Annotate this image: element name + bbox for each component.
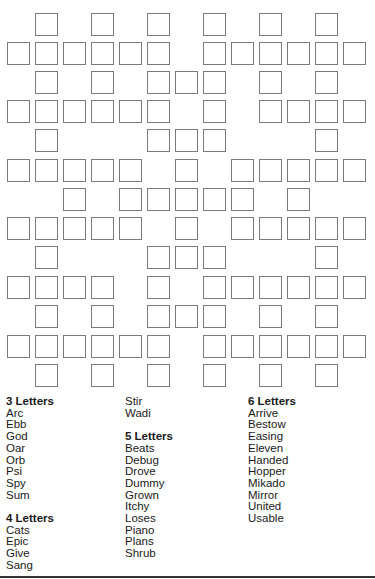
grid-cell-r9-c5[interactable]	[147, 276, 170, 299]
grid-cell-r7-c4[interactable]	[119, 217, 142, 240]
grid-cell-r10-c6[interactable]	[175, 305, 198, 328]
grid-cell-r2-c7[interactable]	[203, 71, 226, 94]
grid-cell-r7-c12[interactable]	[343, 217, 366, 240]
grid-cell-r2-c3[interactable]	[91, 71, 114, 94]
grid-cell-r12-c7[interactable]	[203, 364, 226, 387]
grid-cell-r6-c2[interactable]	[63, 188, 86, 211]
grid-cell-r9-c12[interactable]	[343, 276, 366, 299]
grid-cell-r11-c8[interactable]	[231, 335, 254, 358]
grid-cell-r11-c1[interactable]	[35, 335, 58, 358]
grid-cell-r10-c3[interactable]	[91, 305, 114, 328]
grid-cell-r8-c11[interactable]	[315, 246, 338, 269]
grid-cell-r11-c10[interactable]	[287, 335, 310, 358]
grid-cell-r4-c1[interactable]	[35, 129, 58, 152]
grid-cell-r1-c5[interactable]	[147, 42, 170, 65]
grid-cell-r12-c1[interactable]	[35, 364, 58, 387]
grid-cell-r7-c8[interactable]	[231, 217, 254, 240]
grid-cell-r0-c9[interactable]	[259, 13, 282, 36]
grid-cell-r10-c7[interactable]	[203, 305, 226, 328]
grid-cell-r0-c1[interactable]	[35, 13, 58, 36]
grid-cell-r1-c3[interactable]	[91, 42, 114, 65]
grid-cell-r7-c3[interactable]	[91, 217, 114, 240]
grid-cell-r3-c2[interactable]	[63, 100, 86, 123]
grid-cell-r7-c11[interactable]	[315, 217, 338, 240]
grid-cell-r3-c7[interactable]	[203, 100, 226, 123]
grid-cell-r11-c5[interactable]	[147, 335, 170, 358]
grid-cell-r9-c3[interactable]	[91, 276, 114, 299]
grid-cell-r3-c11[interactable]	[315, 100, 338, 123]
grid-cell-r7-c0[interactable]	[7, 217, 30, 240]
grid-cell-r12-c9[interactable]	[259, 364, 282, 387]
grid-cell-r1-c11[interactable]	[315, 42, 338, 65]
grid-cell-r10-c1[interactable]	[35, 305, 58, 328]
grid-cell-r2-c5[interactable]	[147, 71, 170, 94]
grid-cell-r7-c1[interactable]	[35, 217, 58, 240]
grid-cell-r2-c1[interactable]	[35, 71, 58, 94]
grid-cell-r11-c11[interactable]	[315, 335, 338, 358]
grid-cell-r3-c1[interactable]	[35, 100, 58, 123]
grid-cell-r9-c11[interactable]	[315, 276, 338, 299]
grid-cell-r8-c5[interactable]	[147, 246, 170, 269]
grid-cell-r6-c10[interactable]	[287, 188, 310, 211]
grid-cell-r2-c9[interactable]	[259, 71, 282, 94]
grid-cell-r3-c9[interactable]	[259, 100, 282, 123]
grid-cell-r0-c11[interactable]	[315, 13, 338, 36]
grid-cell-r12-c3[interactable]	[91, 364, 114, 387]
grid-cell-r0-c3[interactable]	[91, 13, 114, 36]
grid-cell-r5-c6[interactable]	[175, 159, 198, 182]
grid-cell-r9-c2[interactable]	[63, 276, 86, 299]
grid-cell-r4-c11[interactable]	[315, 129, 338, 152]
grid-cell-r3-c5[interactable]	[147, 100, 170, 123]
grid-cell-r1-c8[interactable]	[231, 42, 254, 65]
grid-cell-r3-c12[interactable]	[343, 100, 366, 123]
grid-cell-r3-c4[interactable]	[119, 100, 142, 123]
grid-cell-r5-c11[interactable]	[315, 159, 338, 182]
grid-cell-r6-c8[interactable]	[231, 188, 254, 211]
grid-cell-r4-c7[interactable]	[203, 129, 226, 152]
grid-cell-r9-c7[interactable]	[203, 276, 226, 299]
grid-cell-r5-c0[interactable]	[7, 159, 30, 182]
grid-cell-r4-c5[interactable]	[147, 129, 170, 152]
grid-cell-r9-c10[interactable]	[287, 276, 310, 299]
grid-cell-r10-c9[interactable]	[259, 305, 282, 328]
grid-cell-r5-c9[interactable]	[259, 159, 282, 182]
grid-cell-r3-c10[interactable]	[287, 100, 310, 123]
grid-cell-r11-c7[interactable]	[203, 335, 226, 358]
grid-cell-r12-c11[interactable]	[315, 364, 338, 387]
grid-cell-r6-c5[interactable]	[147, 188, 170, 211]
grid-cell-r10-c11[interactable]	[315, 305, 338, 328]
grid-cell-r11-c2[interactable]	[63, 335, 86, 358]
grid-cell-r8-c6[interactable]	[175, 246, 198, 269]
grid-cell-r8-c7[interactable]	[203, 246, 226, 269]
grid-cell-r9-c8[interactable]	[231, 276, 254, 299]
grid-cell-r7-c2[interactable]	[63, 217, 86, 240]
grid-cell-r12-c5[interactable]	[147, 364, 170, 387]
grid-cell-r1-c12[interactable]	[343, 42, 366, 65]
grid-cell-r0-c7[interactable]	[203, 13, 226, 36]
grid-cell-r8-c1[interactable]	[35, 246, 58, 269]
grid-cell-r0-c5[interactable]	[147, 13, 170, 36]
grid-cell-r7-c6[interactable]	[175, 217, 198, 240]
grid-cell-r5-c12[interactable]	[343, 159, 366, 182]
grid-cell-r1-c9[interactable]	[259, 42, 282, 65]
grid-cell-r7-c9[interactable]	[259, 217, 282, 240]
grid-cell-r5-c10[interactable]	[287, 159, 310, 182]
grid-cell-r1-c4[interactable]	[119, 42, 142, 65]
grid-cell-r5-c8[interactable]	[231, 159, 254, 182]
grid-cell-r9-c0[interactable]	[7, 276, 30, 299]
grid-cell-r6-c6[interactable]	[175, 188, 198, 211]
grid-cell-r5-c1[interactable]	[35, 159, 58, 182]
grid-cell-r5-c2[interactable]	[63, 159, 86, 182]
grid-cell-r3-c3[interactable]	[91, 100, 114, 123]
grid-cell-r5-c3[interactable]	[91, 159, 114, 182]
grid-cell-r10-c5[interactable]	[147, 305, 170, 328]
grid-cell-r2-c6[interactable]	[175, 71, 198, 94]
grid-cell-r1-c1[interactable]	[35, 42, 58, 65]
grid-cell-r3-c0[interactable]	[7, 100, 30, 123]
grid-cell-r11-c3[interactable]	[91, 335, 114, 358]
grid-cell-r1-c2[interactable]	[63, 42, 86, 65]
grid-cell-r1-c0[interactable]	[7, 42, 30, 65]
grid-cell-r2-c11[interactable]	[315, 71, 338, 94]
grid-cell-r7-c10[interactable]	[287, 217, 310, 240]
grid-cell-r6-c4[interactable]	[119, 188, 142, 211]
